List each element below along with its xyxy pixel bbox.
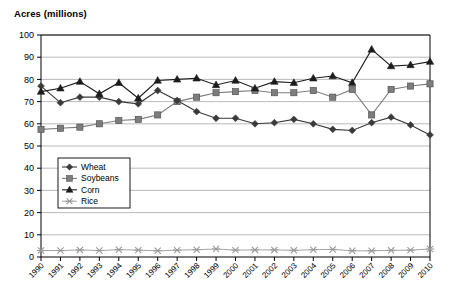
- legend-label-wheat: Wheat: [81, 162, 106, 172]
- y-axis-tick-label: 100: [19, 30, 34, 40]
- x-axis-tick-label: 2001: [241, 261, 260, 280]
- x-axis-tick-label: 1996: [144, 261, 163, 280]
- x-axis-tick-label: 1992: [66, 261, 85, 280]
- data-point-marker: [76, 78, 83, 85]
- data-point-marker: [388, 86, 394, 92]
- data-point-marker: [232, 89, 238, 95]
- data-point-marker: [57, 125, 63, 131]
- data-point-marker: [252, 120, 259, 127]
- data-point-marker: [329, 72, 336, 79]
- x-axis-tick-label: 2005: [319, 261, 338, 280]
- x-axis-tick-label: 2010: [416, 261, 435, 280]
- data-point-marker: [310, 120, 317, 127]
- data-point-marker: [115, 79, 122, 86]
- data-point-marker: [271, 119, 278, 126]
- data-point-marker: [329, 126, 336, 133]
- data-point-marker: [349, 86, 355, 92]
- data-point-marker: [388, 114, 395, 121]
- data-point-marker: [369, 112, 375, 118]
- data-point-marker: [193, 74, 200, 81]
- x-axis-tick-label: 1995: [124, 261, 143, 280]
- data-point-marker: [232, 77, 239, 84]
- data-point-marker: [155, 112, 161, 118]
- y-axis-tick-label: 80: [24, 75, 34, 85]
- y-axis-tick-label: 10: [24, 230, 34, 240]
- x-axis-tick-label: 1997: [163, 261, 182, 280]
- data-point-marker: [77, 124, 83, 130]
- data-point-marker: [115, 98, 122, 105]
- y-axis-tick-label: 20: [24, 208, 34, 218]
- x-axis-tick-label: 1999: [202, 261, 221, 280]
- data-point-marker: [194, 94, 200, 100]
- x-axis-tick-label: 1990: [27, 261, 46, 280]
- chart-plot-area: 0102030405060708090100199019911992199319…: [0, 0, 450, 298]
- legend-label-rice: Rice: [81, 196, 98, 206]
- data-point-marker: [407, 83, 413, 89]
- data-point-marker: [290, 116, 297, 123]
- y-axis-tick-label: 90: [24, 52, 34, 62]
- data-point-marker: [368, 46, 375, 53]
- y-axis-tick-label: 40: [24, 163, 34, 173]
- data-point-marker: [368, 119, 375, 126]
- y-axis-tick-label: 60: [24, 119, 34, 129]
- data-point-marker: [116, 117, 122, 123]
- data-point-marker: [96, 121, 102, 127]
- x-axis-tick-label: 1993: [85, 261, 104, 280]
- x-axis-tick-label: 2002: [260, 261, 279, 280]
- x-axis-tick-label: 1994: [105, 261, 124, 280]
- y-axis-tick-label: 30: [24, 186, 34, 196]
- data-point-marker: [67, 176, 73, 182]
- x-axis-tick-label: 2003: [280, 261, 299, 280]
- data-point-marker: [291, 90, 297, 96]
- y-axis-tick-label: 70: [24, 97, 34, 107]
- x-axis-tick-label: 2009: [397, 261, 416, 280]
- data-point-marker: [427, 132, 434, 139]
- data-point-marker: [77, 94, 84, 101]
- x-axis-tick-label: 1991: [46, 261, 65, 280]
- x-axis-tick-label: 2004: [299, 261, 318, 280]
- data-point-marker: [232, 115, 239, 122]
- data-point-marker: [135, 116, 141, 122]
- data-point-marker: [271, 78, 278, 85]
- x-axis-tick-label: 2000: [221, 261, 240, 280]
- data-point-marker: [426, 58, 433, 65]
- x-axis-tick-label: 2006: [338, 261, 357, 280]
- x-axis-tick-label: 2008: [377, 261, 396, 280]
- data-point-marker: [193, 108, 200, 115]
- data-point-marker: [213, 90, 219, 96]
- data-point-marker: [427, 81, 433, 87]
- data-point-marker: [349, 127, 356, 134]
- data-point-marker: [407, 122, 414, 129]
- x-axis-tick-label: 2007: [358, 261, 377, 280]
- y-axis-tick-label: 50: [24, 141, 34, 151]
- x-axis-tick-label: 1998: [183, 261, 202, 280]
- data-point-marker: [310, 87, 316, 93]
- acreage-line-chart: Acres (millions) 01020304050607080901001…: [0, 0, 450, 298]
- data-point-marker: [330, 94, 336, 100]
- data-point-marker: [271, 90, 277, 96]
- data-point-marker: [213, 115, 220, 122]
- legend-label-soybeans: Soybeans: [81, 173, 119, 183]
- legend-label-corn: Corn: [81, 185, 100, 195]
- y-axis-tick-label: 0: [29, 252, 34, 262]
- data-point-marker: [38, 126, 44, 132]
- data-point-marker: [96, 90, 103, 97]
- data-point-marker: [154, 87, 161, 94]
